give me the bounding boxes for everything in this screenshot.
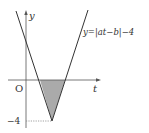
graph: y t O −4 y=|at−b|−4: [0, 0, 149, 133]
y-axis-arrow-icon: [24, 10, 27, 15]
y-tick-label: −4: [7, 116, 21, 126]
shaded-region: [40, 80, 65, 121]
t-axis-label: t: [93, 83, 98, 94]
t-axis-arrow-icon: [96, 78, 101, 81]
equation-label: y=|at−b|−4: [82, 27, 134, 38]
origin-label: O: [15, 83, 23, 94]
y-axis-label: y: [28, 10, 35, 21]
